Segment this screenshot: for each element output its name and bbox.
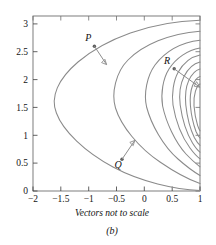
contour-curve-3 xyxy=(145,40,200,175)
figure-caption: Vectors not to scale xyxy=(75,208,149,218)
parabola-field-figure: −2 −1.5 −1 −0.5 0 0.5 1 0 0.5 1 1.5 2 2.… xyxy=(0,0,216,245)
contour-curves xyxy=(54,20,200,190)
figure-container: −2 −1.5 −1 −0.5 0 0.5 1 0 0.5 1 1.5 2 2.… xyxy=(0,0,216,245)
y-axis-tick-labels: 0 0.5 1 1.5 2 2.5 3 xyxy=(16,19,28,196)
x-axis-top-ticks xyxy=(33,16,200,21)
y-tick-label: 2.5 xyxy=(16,47,28,57)
annotation-q: Q xyxy=(114,140,134,170)
y-tick-label: 1 xyxy=(23,131,28,141)
y-tick-label: 3 xyxy=(23,19,28,29)
vector-line-q xyxy=(122,140,135,159)
y-tick-label: 0.5 xyxy=(16,158,28,168)
y-tick-label: 2 xyxy=(23,75,28,85)
point-label-q: Q xyxy=(114,159,122,170)
x-tick-label: −2 xyxy=(28,194,38,204)
x-tick-label: 0 xyxy=(142,194,147,204)
x-tick-label: 1 xyxy=(198,194,203,204)
y-tick-label: 0 xyxy=(23,186,28,196)
point-label-p: P xyxy=(84,32,91,43)
y-tick-label: 1.5 xyxy=(16,103,28,113)
x-tick-label: 0.5 xyxy=(166,194,178,204)
x-tick-label: −1 xyxy=(84,194,94,204)
y-axis-ticks xyxy=(33,24,38,191)
x-axis-tick-labels: −2 −1.5 −1 −0.5 0 0.5 1 xyxy=(28,194,203,204)
contour-curve-2 xyxy=(114,31,200,183)
vector-line-p xyxy=(94,46,106,64)
annotation-p: P xyxy=(84,32,106,64)
x-tick-label: −0.5 xyxy=(108,194,125,204)
point-label-r: R xyxy=(163,55,170,66)
figure-panel-label: (b) xyxy=(106,225,118,237)
x-tick-label: −1.5 xyxy=(52,194,69,204)
